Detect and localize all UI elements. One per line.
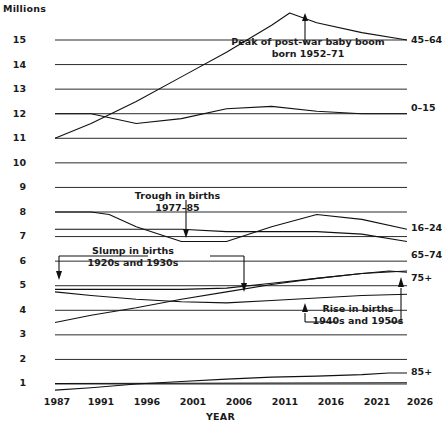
series-line-85+ bbox=[55, 373, 407, 390]
series-line-45-64 bbox=[55, 13, 407, 138]
gridlines bbox=[55, 40, 407, 384]
annotation-leader-lines bbox=[56, 13, 404, 322]
series-line-flat-one-million bbox=[55, 383, 407, 384]
series-line-75-plus-lower bbox=[55, 292, 407, 303]
data-lines bbox=[55, 13, 407, 390]
